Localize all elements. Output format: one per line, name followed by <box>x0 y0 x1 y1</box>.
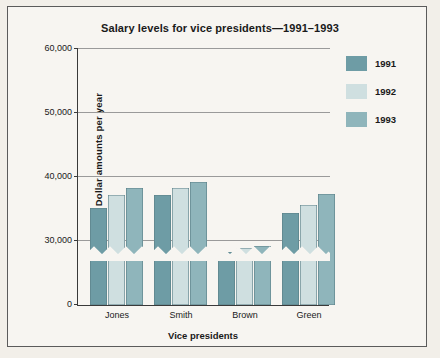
legend: 1991 1992 1993 <box>346 56 426 140</box>
tickmark-0 <box>74 304 78 305</box>
y-tick-40000: 40,000 <box>44 171 72 181</box>
x-tick-smith: Smith <box>151 310 211 320</box>
legend-item-1992[interactable]: 1992 <box>346 84 426 99</box>
x-tick-brown: Brown <box>215 310 275 320</box>
legend-label-1991: 1991 <box>375 58 396 69</box>
bar-brown-1992[interactable] <box>236 248 253 305</box>
bar-group-brown <box>218 48 273 305</box>
legend-label-1992: 1992 <box>375 86 396 97</box>
bar-green-1993[interactable] <box>318 194 335 305</box>
bar-green-1991[interactable] <box>282 213 299 305</box>
tickmark-60000 <box>74 48 78 49</box>
bar-brown-1993[interactable] <box>254 246 271 305</box>
bar-green-1992[interactable] <box>300 205 317 305</box>
x-tick-jones: Jones <box>87 310 147 320</box>
bar-group-jones <box>90 48 145 305</box>
x-axis-title: Vice presidents <box>77 330 329 341</box>
legend-item-1991[interactable]: 1991 <box>346 56 426 71</box>
bar-jones-1993[interactable] <box>126 188 143 305</box>
legend-label-1993: 1993 <box>375 114 396 125</box>
legend-item-1993[interactable]: 1993 <box>346 112 426 127</box>
legend-swatch-1992 <box>346 84 367 99</box>
bar-jones-1991[interactable] <box>90 208 107 305</box>
tickmark-50000 <box>74 112 78 113</box>
bar-smith-1993[interactable] <box>190 182 207 305</box>
legend-swatch-1991 <box>346 56 367 71</box>
tickmark-40000 <box>74 176 78 177</box>
y-tick-50000: 50,000 <box>44 107 72 117</box>
chart-title: Salary levels for vice presidents—1991–1… <box>0 22 440 34</box>
x-tick-green: Green <box>279 310 339 320</box>
plot-area: Dollar amounts per year <box>77 48 329 306</box>
y-axis-tick-labels: 60,000 50,000 40,000 30,000 0 <box>20 48 72 310</box>
tickmark-30000 <box>74 240 78 241</box>
bar-smith-1992[interactable] <box>172 188 189 305</box>
bar-jones-1992[interactable] <box>108 195 125 305</box>
bar-smith-1991[interactable] <box>154 195 171 305</box>
bar-group-smith <box>154 48 209 305</box>
y-tick-0: 0 <box>67 299 72 309</box>
legend-swatch-1993 <box>346 112 367 127</box>
bar-brown-1991[interactable] <box>218 252 235 305</box>
chart-page: Salary levels for vice presidents—1991–1… <box>0 0 440 358</box>
y-tick-30000: 30,000 <box>44 235 72 245</box>
bar-group-green <box>282 48 337 305</box>
y-tick-60000: 60,000 <box>44 43 72 53</box>
